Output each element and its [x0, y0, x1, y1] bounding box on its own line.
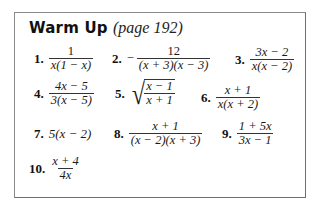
answer-item-7: 7. 5(x − 2) — [34, 126, 91, 142]
answer-item-1: 1. 1 x(1 − x) — [34, 45, 93, 72]
page-reference: (page 192) — [113, 19, 183, 37]
numerator: 1 + 5x — [237, 120, 274, 133]
fraction: x + 4 4x — [50, 155, 80, 182]
denominator: 3x − 1 — [237, 133, 274, 147]
numerator: 4x − 5 — [53, 80, 90, 93]
numerator: 1 — [66, 45, 76, 58]
numerator: 12 — [165, 45, 182, 58]
item-number: 8. — [114, 126, 124, 142]
expression: 5(x − 2) — [49, 126, 92, 142]
numerator: x + 1 — [223, 84, 253, 97]
section-title: Warm Up — [29, 19, 108, 37]
fraction: 1 + 5x 3x − 1 — [237, 120, 274, 147]
denominator: x(1 − x) — [49, 58, 93, 72]
numerator: 3x − 2 — [254, 46, 291, 59]
fraction: 1 x(1 − x) — [49, 45, 93, 72]
item-number: 1. — [34, 51, 44, 67]
answer-item-10: 10. x + 4 4x — [29, 155, 81, 182]
numerator: x + 4 — [50, 155, 80, 168]
negative-sign: − — [127, 51, 134, 66]
denominator: x(x − 2) — [250, 59, 294, 73]
denominator: (x − 2)(x + 3) — [129, 133, 203, 147]
fraction: 12 (x + 3)(x − 3) — [137, 45, 211, 72]
answer-item-6: 6. x + 1 x(x + 2) — [201, 84, 260, 111]
fraction: x + 1 x(x + 2) — [216, 84, 260, 111]
denominator: 3(x − 5) — [49, 93, 94, 107]
answer-item-3: 3. 3x − 2 x(x − 2) — [235, 46, 294, 73]
answer-item-5: 5. √ x − 1 x + 1 — [115, 80, 175, 108]
denominator: x(x + 2) — [216, 97, 260, 111]
answer-item-8: 8. x + 1 (x − 2)(x + 3) — [114, 120, 202, 147]
item-number: 2. — [112, 51, 122, 67]
item-number: 3. — [235, 52, 245, 68]
item-number: 9. — [222, 126, 232, 142]
item-number: 5. — [115, 86, 125, 102]
square-root: √ x − 1 x + 1 — [130, 80, 175, 108]
answer-item-9: 9. 1 + 5x 3x − 1 — [222, 120, 273, 147]
fraction: x − 1 x + 1 — [144, 79, 174, 107]
denominator: (x + 3)(x − 3) — [137, 58, 211, 72]
numerator: x + 1 — [150, 120, 180, 133]
item-number: 4. — [34, 86, 44, 102]
item-number: 10. — [29, 161, 45, 177]
fraction: 3x − 2 x(x − 2) — [250, 46, 294, 73]
denominator: x + 1 — [144, 93, 174, 107]
item-number: 6. — [201, 90, 211, 106]
answer-item-2: 2. − 12 (x + 3)(x − 3) — [112, 45, 210, 72]
fraction: x + 1 (x − 2)(x + 3) — [129, 120, 203, 147]
item-number: 7. — [34, 126, 44, 142]
denominator: 4x — [58, 168, 74, 182]
radical-sign: √ — [131, 80, 144, 108]
numerator: x − 1 — [144, 80, 174, 93]
answer-item-4: 4. 4x − 5 3(x − 5) — [34, 80, 94, 107]
fraction: 4x − 5 3(x − 5) — [49, 80, 94, 107]
